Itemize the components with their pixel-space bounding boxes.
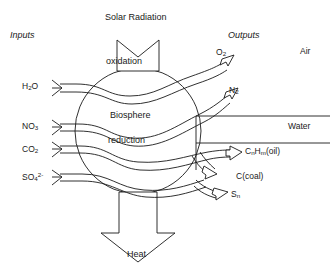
- input-label-so4: SO42-: [22, 172, 43, 182]
- biosphere-diagram-svg: [0, 0, 330, 276]
- input-label-h2o: H2O: [22, 82, 38, 92]
- output-label-oil: CnHm(oil): [245, 147, 280, 157]
- solar-radiation-label: Solar Radiation: [105, 13, 167, 22]
- input-label-no3: NO3: [22, 122, 38, 132]
- reduction-label: reduction: [108, 136, 145, 145]
- input-label-co2: CO2: [22, 145, 38, 155]
- output-label-coal: C(coal): [236, 172, 263, 181]
- output-label-n2: N2: [229, 86, 239, 96]
- flow-branch-sulfur: [194, 180, 228, 200]
- inputs-header: Inputs: [10, 31, 35, 40]
- outputs-header: Outputs: [228, 31, 260, 40]
- water-compartment-label: Water: [288, 122, 310, 131]
- biosphere-label: Biosphere: [110, 111, 151, 120]
- air-compartment-label: Air: [300, 47, 310, 56]
- oxidation-label: oxidation: [106, 57, 142, 66]
- flow-band-so4-coal: [52, 170, 206, 197]
- output-label-sulfur: Sn: [231, 190, 240, 200]
- output-label-o2: O2: [216, 48, 226, 58]
- diagram-canvas: Solar Radiation Heat Inputs Outputs oxid…: [0, 0, 330, 276]
- heat-label: Heat: [127, 250, 146, 259]
